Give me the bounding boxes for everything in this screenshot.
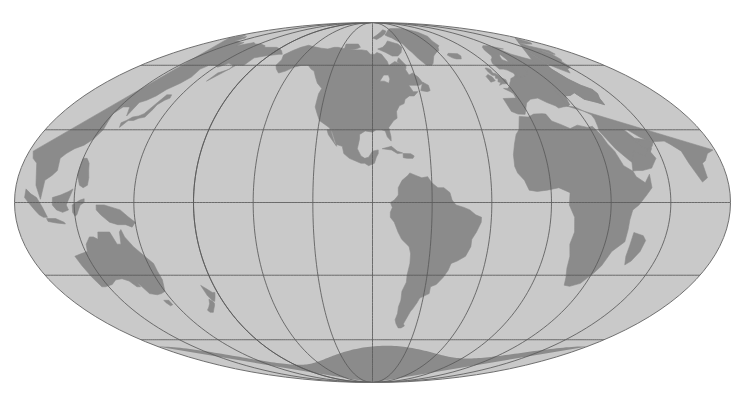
world-map-svg — [0, 0, 745, 397]
world-map-container — [0, 0, 745, 397]
